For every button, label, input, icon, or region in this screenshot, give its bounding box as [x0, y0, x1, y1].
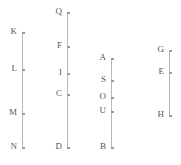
point-label: C	[56, 89, 62, 98]
tick-mark-icon	[67, 46, 70, 48]
point-label: K	[11, 27, 18, 36]
tick-mark-icon	[22, 32, 25, 34]
point-label: L	[12, 64, 18, 73]
tick-mark-icon	[169, 115, 172, 117]
point-label: G	[158, 45, 165, 54]
point-label: F	[57, 41, 62, 50]
point-label: D	[56, 142, 63, 151]
tick-mark-icon	[111, 58, 114, 60]
tick-mark-icon	[67, 94, 70, 96]
vertical-axis-line	[22, 33, 23, 148]
tick-mark-icon	[111, 147, 114, 149]
vertical-axis-line	[111, 59, 112, 148]
tick-mark-icon	[22, 147, 25, 149]
tick-mark-icon	[67, 147, 70, 149]
point-label: S	[101, 75, 106, 84]
tick-mark-icon	[111, 80, 114, 82]
point-label: Q	[56, 7, 63, 16]
vertical-axis-line	[169, 51, 170, 116]
tick-mark-icon	[67, 73, 70, 75]
tick-mark-icon	[111, 97, 114, 99]
point-label: E	[159, 67, 165, 76]
point-label: B	[100, 142, 106, 151]
tick-mark-icon	[67, 12, 70, 14]
tick-mark-icon	[169, 50, 172, 52]
point-label: I	[59, 68, 62, 77]
tick-mark-icon	[169, 72, 172, 74]
geometry-figure-canvas: KLMNQFICDASOUBGEH	[0, 0, 181, 165]
tick-mark-icon	[22, 113, 25, 115]
point-label: H	[158, 110, 165, 119]
tick-mark-icon	[22, 69, 25, 71]
point-label: M	[9, 108, 17, 117]
point-label: U	[100, 106, 107, 115]
point-label: N	[11, 142, 18, 151]
point-label: O	[100, 92, 107, 101]
point-label: A	[100, 53, 107, 62]
tick-mark-icon	[111, 111, 114, 113]
vertical-axis-line	[67, 13, 68, 148]
